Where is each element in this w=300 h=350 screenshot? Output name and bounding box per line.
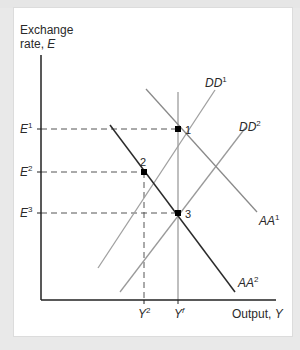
x-axis-title: Output, Y (232, 307, 284, 321)
guide-lines (41, 129, 178, 300)
dd1-label: DD1 (205, 75, 227, 90)
y2-label: Y2 (138, 306, 151, 321)
point-2-label: 2 (140, 156, 146, 168)
dd2-curve (120, 127, 246, 292)
dd2-label: DD2 (239, 119, 261, 134)
axes (41, 55, 276, 300)
yf-label: Yf (174, 306, 185, 321)
aa2-label: AA2 (237, 275, 259, 290)
e3-label: E3 (20, 205, 33, 220)
point-1-label: 1 (185, 124, 191, 136)
y-axis-title-line2: rate, E (20, 37, 56, 51)
aa1-curve (146, 89, 257, 212)
dd-aa-diagram: 1 2 3 Exchange rate, E E1 E2 E3 Y2 Yf Ou… (0, 0, 300, 350)
tick-marks (37, 129, 178, 304)
y-axis-title-line1: Exchange (20, 23, 74, 37)
point-3-marker (175, 210, 181, 216)
point-2-marker (141, 169, 147, 175)
aa2-curve (110, 125, 235, 292)
point-1-marker (175, 126, 181, 132)
point-3-label: 3 (185, 208, 191, 220)
e1-label: E1 (20, 121, 33, 136)
e2-label: E2 (20, 164, 33, 179)
aa1-label: AA1 (258, 213, 280, 228)
